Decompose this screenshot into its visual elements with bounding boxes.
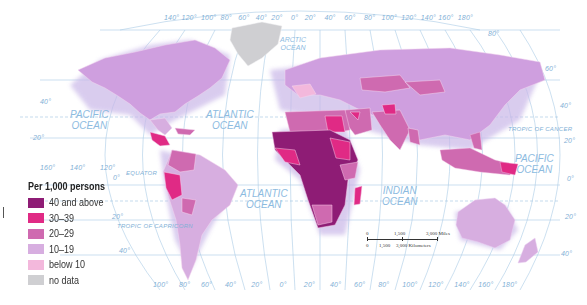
legend-swatch	[28, 275, 44, 285]
left-longitude-120: 120°	[100, 164, 115, 171]
scale-tick	[402, 237, 403, 241]
legend-item: 10–19	[28, 242, 138, 258]
ocean-label-pacific-east: Pacific Ocean	[515, 153, 554, 175]
south-america	[163, 150, 238, 280]
ocean-label-atlantic-south: Atlantic Ocean	[240, 188, 288, 210]
legend-swatch	[28, 260, 44, 270]
bottom-longitude-labels: 100° 80° 60° 40° 20° 0° 20° 40° 60° 80° …	[153, 281, 517, 288]
lat-left-40: 40°	[40, 98, 51, 105]
lat-right-s20: 20°	[565, 213, 576, 220]
lat-right-s40: 40°	[561, 250, 572, 257]
legend-item: 40 and above	[28, 195, 138, 211]
legend-item: no data	[28, 273, 138, 289]
lat-right-0: 0°	[567, 175, 574, 182]
legend-swatch	[28, 244, 44, 254]
lat-top-80: 80°	[488, 30, 499, 37]
ocean-label-arctic: Arctic Ocean	[280, 36, 306, 52]
lat-left-20: 20°	[33, 134, 44, 141]
greenland	[230, 22, 282, 66]
ocean-label-pacific-west: Pacific Ocean	[70, 109, 109, 131]
lat-left-0: 0°	[113, 174, 120, 181]
legend-title: Per 1,000 persons	[28, 181, 127, 192]
legend-item: 30–39	[28, 211, 138, 227]
legend-item: below 10	[28, 257, 138, 273]
ocean-label-indian: Indian Ocean	[382, 185, 418, 207]
scale-tick	[437, 237, 438, 241]
left-longitude-160: 160°	[40, 164, 55, 171]
legend-swatch	[28, 198, 44, 208]
edge-marker	[3, 207, 4, 218]
left-longitude-140: 140°	[70, 164, 85, 171]
lat-right-60: 60°	[545, 65, 556, 72]
scale-bar: 0 1,500 3,000 Miles 0 1,500 3,000 Kilome…	[366, 231, 456, 253]
legend-item: 20–29	[28, 226, 138, 242]
lat-right-20: 20°	[564, 137, 575, 144]
lat-right-40: 40°	[560, 102, 571, 109]
legend-swatch	[28, 229, 44, 239]
ocean-label-atlantic-north: Atlantic Ocean	[206, 109, 254, 131]
top-longitude-labels: 140° 120° 100° 80° 60° 40° 20° 0° 20° 40…	[164, 14, 473, 21]
equator-label: EQUATOR	[126, 170, 157, 176]
legend: Per 1,000 persons 40 and above 30–39 20–…	[28, 181, 138, 288]
legend-swatch	[28, 213, 44, 223]
scale-tick	[367, 237, 368, 241]
tropic-of-cancer-label: TROPIC OF CANCER	[508, 126, 572, 132]
oceania	[456, 198, 538, 263]
